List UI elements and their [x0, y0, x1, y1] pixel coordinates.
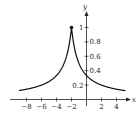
y-axis-arrow-icon — [85, 11, 89, 16]
y-tick-label: 0.8 — [90, 38, 101, 46]
x-tick-label: −4 — [51, 103, 62, 111]
x-tick-label: −6 — [36, 103, 47, 111]
x-tick-label: 2 — [99, 103, 103, 111]
chart: x y −8−6−4−224 0.20.40.60.81 — [0, 0, 139, 124]
y-tick-label: 0.2 — [72, 82, 83, 90]
y-axis-label: y — [82, 3, 88, 11]
y-tick-label: 0.6 — [90, 53, 102, 61]
x-axis-arrow-icon — [126, 98, 131, 102]
x-axis-label: x — [132, 96, 136, 104]
y-tick-label: 0.4 — [90, 67, 102, 75]
x-tick-label: −2 — [66, 103, 76, 111]
x-tick-label: 4 — [114, 103, 119, 111]
peak-point — [70, 26, 74, 30]
y-axis: y — [82, 3, 89, 106]
x-tick-label: −8 — [21, 103, 31, 111]
y-tick-label: 1 — [79, 24, 83, 32]
